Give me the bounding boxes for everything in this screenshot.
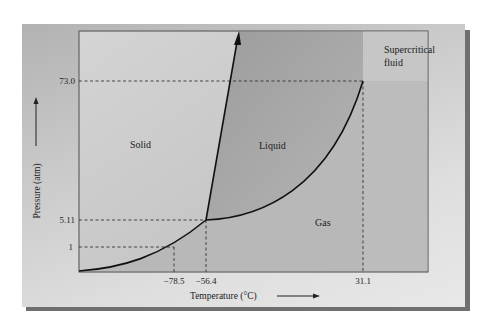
gas-region-right xyxy=(363,81,428,271)
x-axis-arrow-icon xyxy=(313,294,320,299)
label-supercritical-2: fluid xyxy=(384,57,403,68)
label-supercritical-1: Supercritical xyxy=(384,44,435,55)
y-tick-73: 73.0 xyxy=(59,76,75,86)
phase-diagram: Solid Liquid Gas Supercritical fluid 73.… xyxy=(0,0,491,332)
y-tick-1: 1 xyxy=(69,242,74,252)
label-solid: Solid xyxy=(130,139,151,150)
x-axis-label: Temperature (°C) xyxy=(190,291,257,302)
label-gas: Gas xyxy=(315,217,331,228)
y-axis-arrow-icon xyxy=(34,97,39,104)
label-liquid: Liquid xyxy=(259,140,286,151)
x-tick-78-5: −78.5 xyxy=(164,276,185,286)
y-axis-label: Pressure (atm) xyxy=(32,163,43,218)
x-tick-31-1: 31.1 xyxy=(355,276,371,286)
y-tick-5-11: 5.11 xyxy=(60,215,75,225)
x-tick-56-4: −56.4 xyxy=(196,276,217,286)
supercritical-region xyxy=(363,31,428,81)
